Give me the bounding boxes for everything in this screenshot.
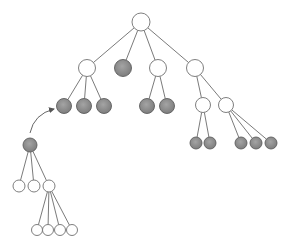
tree-node-filled <box>190 137 202 149</box>
tree-node-open <box>28 180 40 192</box>
tree-node-open <box>67 225 78 236</box>
tree-node-open <box>219 98 234 113</box>
tree-node-open <box>43 180 55 192</box>
tree-edge <box>90 76 100 99</box>
tree-node-filled <box>97 99 112 114</box>
tree-edge <box>126 30 138 60</box>
tree-edge <box>48 192 49 225</box>
tree-edge <box>229 112 239 137</box>
tree-node-filled <box>115 60 132 77</box>
tree-node-filled <box>265 137 277 149</box>
tree-node-filled <box>77 99 92 114</box>
tree-node-open <box>32 225 43 236</box>
tree-edge <box>204 112 209 137</box>
curved-arrow-icon <box>30 109 54 133</box>
tree-node-open <box>43 225 54 236</box>
tree-node-filled <box>160 99 175 114</box>
tree-node-open <box>150 60 167 77</box>
curved-arrow <box>30 109 54 133</box>
tree-edge <box>149 76 156 99</box>
tree-edge <box>144 30 155 60</box>
tree-edge <box>160 76 165 98</box>
tree-node-open <box>55 225 66 236</box>
tree-edges <box>21 28 267 225</box>
tree-node-filled <box>140 99 155 114</box>
tree-diagram <box>0 0 291 248</box>
tree-edge <box>197 76 202 97</box>
tree-node-open <box>187 60 204 77</box>
tree-edge <box>85 76 87 98</box>
tree-node-filled <box>250 137 262 149</box>
tree-edge <box>33 151 47 180</box>
tree-node-open <box>13 180 25 192</box>
tree-edge <box>68 75 83 99</box>
tree-edge <box>38 192 47 225</box>
tree-node-filled <box>204 137 216 149</box>
tree-node-filled <box>235 137 247 149</box>
tree-node-open <box>79 60 96 77</box>
tree-diagram-svg <box>0 0 291 248</box>
tree-edge <box>21 152 29 180</box>
tree-node-open <box>196 98 211 113</box>
tree-node-open <box>132 13 150 31</box>
tree-edge <box>197 112 202 137</box>
tree-node-filled <box>57 99 72 114</box>
tree-node-filled <box>23 138 37 152</box>
tree-edge <box>93 28 134 63</box>
tree-edge <box>200 75 221 100</box>
tree-edge <box>31 152 34 180</box>
